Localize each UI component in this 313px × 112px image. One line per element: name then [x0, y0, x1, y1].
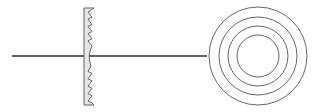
fresnel-ring-2 [219, 17, 297, 95]
fresnel-lens-diagram [0, 0, 313, 112]
diagram-svg [0, 0, 313, 112]
fresnel-lens-front-view [209, 7, 307, 105]
fresnel-ring-1 [209, 7, 307, 105]
fresnel-ring-4 [237, 35, 279, 77]
